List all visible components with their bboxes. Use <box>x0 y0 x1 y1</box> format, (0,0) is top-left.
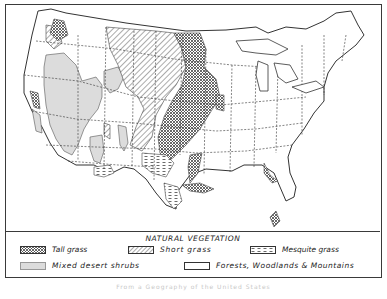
tall-grass-swatch-icon <box>20 246 46 254</box>
forests-swatch-icon <box>184 262 210 270</box>
short-grass-swatch-icon <box>128 246 154 254</box>
legend-item-tall-grass: Tall grass <box>20 245 87 254</box>
vegetation-map <box>6 5 380 231</box>
legend-label: Short grass <box>160 245 212 254</box>
mixed-desert-shrubs-swatch-icon <box>20 262 46 270</box>
map-frame: NATURAL VEGETATION Tall grass Short gras… <box>5 4 382 278</box>
legend: NATURAL VEGETATION Tall grass Short gras… <box>6 231 380 278</box>
legend-title: NATURAL VEGETATION <box>6 234 380 243</box>
mesquite-grass-swatch-icon <box>250 246 276 254</box>
legend-item-forests-woodlands-mountains: Forests, Woodlands & Mountains <box>184 261 354 270</box>
legend-item-short-grass: Short grass <box>128 245 212 254</box>
legend-label: Mixed desert shrubs <box>52 261 140 270</box>
legend-label: Mesquite grass <box>282 245 339 254</box>
figure-caption: From a Geography of the United States <box>0 283 387 290</box>
legend-label: Tall grass <box>52 245 87 254</box>
legend-item-mixed-desert-shrubs: Mixed desert shrubs <box>20 261 140 270</box>
legend-label: Forests, Woodlands & Mountains <box>216 261 354 270</box>
legend-item-mesquite-grass: Mesquite grass <box>250 245 339 254</box>
